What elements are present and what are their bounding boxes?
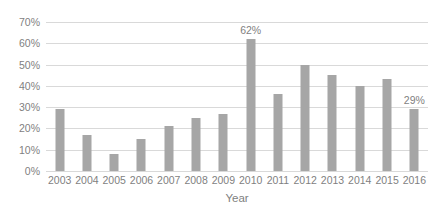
bar[interactable] (273, 94, 282, 171)
x-axis-tick-label: 2006 (130, 174, 153, 186)
x-axis-line (46, 171, 428, 172)
bar-slot (101, 22, 128, 171)
x-axis-title: Year (46, 192, 428, 204)
bar[interactable] (110, 154, 119, 171)
bars-layer: 62%29% (46, 22, 428, 171)
y-axis-tick-label: 70% (0, 16, 40, 28)
x-axis-tick-label: 2007 (157, 174, 180, 186)
x-axis-tick-label: 2015 (375, 174, 398, 186)
bar[interactable] (137, 139, 146, 171)
bar[interactable] (82, 135, 91, 171)
y-axis-tick-label: 20% (0, 122, 40, 134)
x-axis-tick-label: 2008 (184, 174, 207, 186)
x-axis-tick-label: 2013 (321, 174, 344, 186)
bar[interactable] (55, 109, 64, 171)
y-axis-tick-label: 30% (0, 101, 40, 113)
bar-slot (128, 22, 155, 171)
x-axis-tick-label: 2016 (403, 174, 426, 186)
bar-slot (155, 22, 182, 171)
x-axis-tick-label: 2009 (212, 174, 235, 186)
bar-value-label: 29% (404, 94, 425, 106)
bar-chart: 0%10%20%30%40%50%60%70% 62%29% 200320042… (0, 0, 438, 216)
bar-slot (46, 22, 73, 171)
bar[interactable] (301, 65, 310, 171)
bar-slot: 62% (237, 22, 264, 171)
bar[interactable] (164, 126, 173, 171)
x-axis-tick-label: 2004 (75, 174, 98, 186)
y-axis-tick-labels: 0%10%20%30%40%50%60%70% (0, 22, 40, 171)
bar-slot (73, 22, 100, 171)
x-axis-tick-label: 2010 (239, 174, 262, 186)
x-axis-tick-label: 2014 (348, 174, 371, 186)
y-axis-tick-label: 50% (0, 59, 40, 71)
bar-slot: 29% (401, 22, 428, 171)
x-axis-tick-label: 2012 (294, 174, 317, 186)
y-axis-tick-label: 0% (0, 165, 40, 177)
bar[interactable] (192, 118, 201, 171)
x-axis-tick-label: 2005 (103, 174, 126, 186)
bar-slot (182, 22, 209, 171)
bar-slot (319, 22, 346, 171)
y-axis-tick-label: 10% (0, 144, 40, 156)
y-axis-tick-label: 40% (0, 80, 40, 92)
bar[interactable] (355, 86, 364, 171)
x-axis-tick-label: 2011 (267, 174, 290, 186)
bar[interactable] (328, 75, 337, 171)
bar[interactable] (383, 79, 392, 171)
x-axis-tick-label: 2003 (48, 174, 71, 186)
bar-slot (373, 22, 400, 171)
y-axis-tick-label: 60% (0, 37, 40, 49)
bar-value-label: 62% (240, 24, 261, 36)
bar[interactable] (219, 114, 228, 171)
bar-slot (346, 22, 373, 171)
bar-slot (210, 22, 237, 171)
bar-slot (264, 22, 291, 171)
bar[interactable] (410, 109, 419, 171)
bar[interactable] (246, 39, 255, 171)
bar-slot (292, 22, 319, 171)
x-axis-tick-labels: 2003200420052006200720082009201020112012… (46, 174, 428, 190)
